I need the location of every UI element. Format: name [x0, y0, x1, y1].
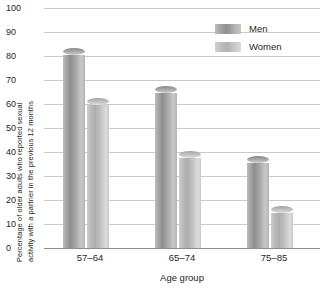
bar-men-57-64 [63, 51, 85, 248]
bar-body [155, 93, 177, 248]
legend-item-women: Women [215, 40, 315, 55]
bar-body [63, 55, 85, 248]
y-axis-tick-label: 100 [6, 4, 40, 13]
y-axis-tick-label: 10 [6, 220, 40, 229]
y-axis-tick-label: 40 [6, 148, 40, 157]
legend-swatch-men-icon [215, 24, 241, 34]
legend-item-men: Men [215, 22, 315, 37]
gridline [44, 128, 320, 129]
y-axis-tick-labels: 0102030405060708090100 [0, 8, 40, 248]
bar-cap [87, 98, 109, 105]
bar-body [271, 213, 293, 248]
x-axis-title: Age group [44, 272, 320, 283]
bar-cap [63, 48, 85, 55]
bar-cap [155, 86, 177, 93]
legend-label-women: Women [249, 41, 282, 52]
bar-body [179, 158, 201, 248]
y-axis-tick-label: 50 [6, 124, 40, 133]
bar-cap [247, 156, 269, 163]
x-axis-tick-labels: 57–6465–7475–85 [44, 252, 320, 266]
bar-men-65-74 [155, 90, 177, 248]
bar-body [247, 163, 269, 248]
legend-label-men: Men [249, 23, 267, 34]
bar-women-75-85 [271, 210, 293, 248]
y-axis-tick-label: 0 [6, 244, 40, 253]
bar-body [87, 105, 109, 248]
bar-women-57-64 [87, 102, 109, 248]
chart-legend: Men Women [215, 22, 315, 58]
gridline [44, 104, 320, 105]
legend-swatch-women-icon [215, 42, 241, 52]
bar-men-75-85 [247, 159, 269, 248]
y-axis-tick-label: 60 [6, 100, 40, 109]
y-axis-tick-label: 30 [6, 172, 40, 181]
y-axis-tick-label: 90 [6, 28, 40, 37]
gridline [44, 8, 320, 9]
gridline [44, 80, 320, 81]
x-axis-tick-label: 75–85 [228, 252, 320, 263]
bar-chart: Percentage of older adults who reported … [0, 0, 329, 294]
y-axis-tick-label: 80 [6, 52, 40, 61]
bar-women-65-74 [179, 154, 201, 248]
bar-cap [271, 206, 293, 213]
y-axis-tick-label: 20 [6, 196, 40, 205]
y-axis-tick-label: 70 [6, 76, 40, 85]
bar-cap [179, 151, 201, 158]
x-axis-tick-label: 65–74 [136, 252, 228, 263]
x-axis-tick-label: 57–64 [44, 252, 136, 263]
x-axis-line [44, 248, 320, 249]
